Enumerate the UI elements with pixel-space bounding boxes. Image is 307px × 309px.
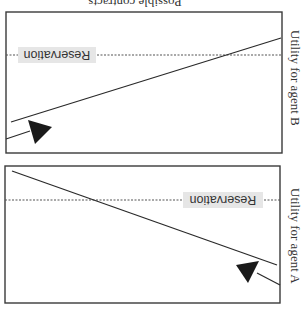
contract-line-agent-a — [12, 171, 277, 265]
axis-label-agent-a: Utility for agent A — [288, 188, 303, 284]
axis-label-agent-b: Utility for agent B — [288, 30, 303, 126]
arrow-shaft-agent-b — [6, 131, 30, 139]
diagram-stage: Possible contracts Reservation Utility f… — [0, 0, 307, 309]
panel-agent-b: Reservation Utility for agent B — [6, 12, 303, 153]
caption-top: Possible contracts — [88, 0, 182, 10]
utility-diagram: Possible contracts Reservation Utility f… — [0, 0, 307, 309]
arrow-shaft-agent-a — [257, 273, 280, 285]
reservation-label-agent-a: Reservation — [190, 193, 257, 207]
arrow-head-icon-agent-a — [236, 261, 259, 283]
arrow-head-icon-agent-b — [28, 120, 52, 144]
reservation-label-agent-b: Reservation — [24, 48, 91, 62]
caption-text: Possible contracts — [88, 0, 182, 10]
panel-agent-a: Reservation Utility for agent A — [5, 166, 303, 303]
frame-agent-b — [6, 12, 282, 153]
frame-agent-a — [5, 166, 280, 303]
